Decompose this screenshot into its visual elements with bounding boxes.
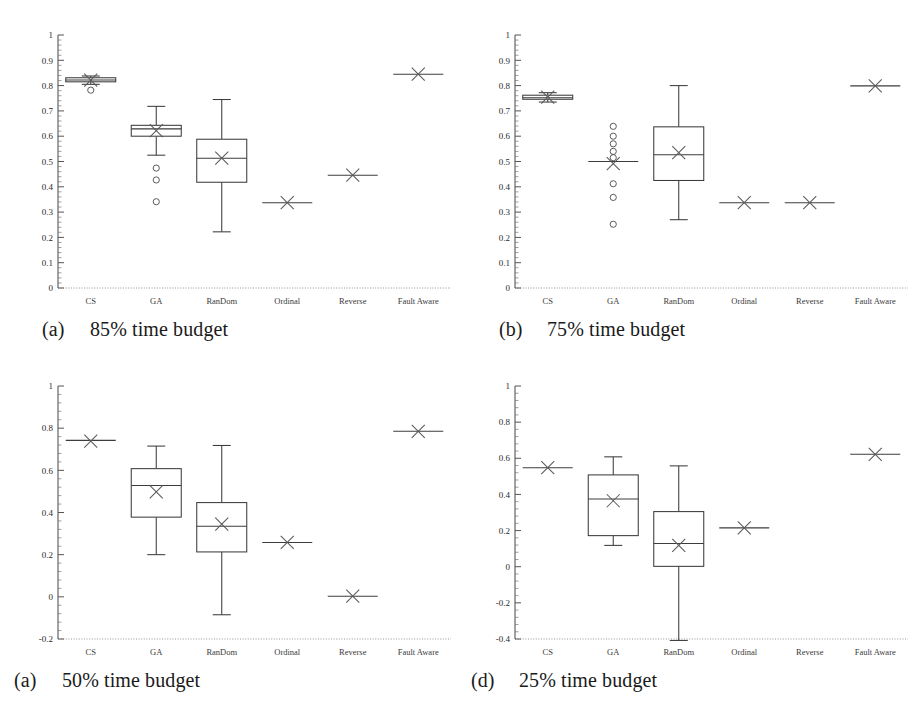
x-tick-label: Reverse <box>339 647 367 657</box>
x-tick-label: RanDom <box>663 647 694 657</box>
x-tick-label: Ordinal <box>274 296 301 306</box>
caption-letter: (b) <box>457 318 533 341</box>
y-tick-label: 0.3 <box>499 207 511 217</box>
plot-area-c: -0.200.20.40.60.81CSGARanDomOrdinalRever… <box>0 351 457 661</box>
y-tick-label: 1 <box>506 381 511 391</box>
plot-area-a: 00.10.20.30.40.50.60.70.80.91CSGARanDomO… <box>0 0 457 310</box>
y-tick-label: -0.2 <box>39 634 53 644</box>
box-group-random <box>197 100 247 232</box>
x-tick-label: Fault Aware <box>855 296 896 306</box>
x-tick-label: GA <box>150 296 163 306</box>
caption-text: 85% time budget <box>76 318 228 341</box>
caption-text: 25% time budget <box>505 669 657 692</box>
outlier-point <box>610 221 616 227</box>
box-rect <box>197 139 247 182</box>
y-tick-label: 0.3 <box>42 207 54 217</box>
y-tick-label: 0 <box>49 283 54 293</box>
y-tick-label: -0.2 <box>496 598 510 608</box>
y-tick-label: 1 <box>49 381 54 391</box>
x-tick-label: CS <box>86 647 97 657</box>
y-tick-label: 0.8 <box>42 81 54 91</box>
outlier-point <box>153 165 159 171</box>
plot-area-b: 00.10.20.30.40.50.60.70.80.91CSGARanDomO… <box>457 0 914 310</box>
y-tick-label: 0.6 <box>499 131 511 141</box>
y-tick-label: 0.9 <box>499 56 511 66</box>
x-tick-label: Reverse <box>339 296 367 306</box>
y-tick-label: 0.2 <box>42 550 53 560</box>
box-group-cs <box>523 461 573 474</box>
panel-d: -0.4-0.200.20.40.60.81CSGARanDomOrdinalR… <box>457 351 914 701</box>
outlier-point <box>88 87 94 93</box>
x-tick-label: Ordinal <box>731 647 758 657</box>
x-tick-label: GA <box>150 647 163 657</box>
y-tick-label: 0.8 <box>499 81 511 91</box>
y-tick-label: 0.2 <box>499 233 510 243</box>
box-group-reverse <box>328 590 378 603</box>
box-group-ga <box>588 123 638 227</box>
y-tick-label: 0 <box>506 562 511 572</box>
y-tick-label: 0.4 <box>499 490 511 500</box>
plot-area-d: -0.4-0.200.20.40.60.81CSGARanDomOrdinalR… <box>457 351 914 661</box>
caption-text: 50% time budget <box>48 669 200 692</box>
x-tick-label: CS <box>543 647 554 657</box>
y-tick-label: 0 <box>506 283 511 293</box>
outlier-point <box>610 181 616 187</box>
x-tick-label: Ordinal <box>731 296 758 306</box>
box-rect <box>588 475 638 536</box>
x-tick-label: RanDom <box>206 647 237 657</box>
y-tick-label: 0.9 <box>42 56 54 66</box>
caption-letter: (a) <box>0 318 76 341</box>
panel-c: -0.200.20.40.60.81CSGARanDomOrdinalRever… <box>0 351 457 701</box>
box-rect <box>654 127 704 181</box>
panel-caption-d: (d) 25% time budget <box>457 663 914 697</box>
panel-caption-b: (b) 75% time budget <box>457 312 914 346</box>
box-group-ga <box>131 446 181 555</box>
caption-letter: (d) <box>457 669 505 692</box>
y-tick-label: 0.6 <box>42 466 54 476</box>
figure-sheet: 00.10.20.30.40.50.60.70.80.91CSGARanDomO… <box>0 0 914 701</box>
outlier-point <box>153 199 159 205</box>
outlier-point <box>153 177 159 183</box>
box-group-fault-aware <box>393 68 443 81</box>
outlier-point <box>610 123 616 129</box>
box-rect <box>131 469 181 517</box>
caption-text: 75% time budget <box>533 318 685 341</box>
panel-b: 00.10.20.30.40.50.60.70.80.91CSGARanDomO… <box>457 0 914 350</box>
outlier-point <box>610 148 616 154</box>
box-group-random <box>654 466 704 641</box>
y-tick-label: 0 <box>49 592 54 602</box>
box-group-reverse <box>328 169 378 182</box>
y-tick-label: 0.1 <box>42 258 53 268</box>
outlier-point <box>610 194 616 200</box>
box-group-ga <box>131 106 181 204</box>
y-tick-label: 0.1 <box>499 258 510 268</box>
y-tick-label: 0.2 <box>42 233 53 243</box>
outlier-point <box>610 141 616 147</box>
y-tick-label: 0.8 <box>499 417 511 427</box>
y-tick-label: 0.7 <box>499 106 511 116</box>
y-tick-label: 0.5 <box>42 157 54 167</box>
box-group-cs <box>66 435 116 448</box>
x-tick-label: Fault Aware <box>855 647 896 657</box>
box-group-fault-aware <box>850 448 900 461</box>
y-tick-label: 0.4 <box>499 182 511 192</box>
box-group-ga <box>588 457 638 546</box>
y-tick-label: 0.2 <box>499 526 510 536</box>
boxplot-svg-c: -0.200.20.40.60.81CSGARanDomOrdinalRever… <box>0 351 457 661</box>
x-tick-label: Reverse <box>796 647 824 657</box>
box-group-fault-aware <box>393 425 443 438</box>
y-tick-label: 0.8 <box>42 423 54 433</box>
x-tick-label: Ordinal <box>274 647 301 657</box>
box-group-cs <box>66 74 116 94</box>
box-rect <box>197 503 247 552</box>
box-group-random <box>654 86 704 220</box>
y-tick-label: 0.4 <box>42 182 54 192</box>
boxplot-svg-b: 00.10.20.30.40.50.60.70.80.91CSGARanDomO… <box>457 0 914 310</box>
panel-a: 00.10.20.30.40.50.60.70.80.91CSGARanDomO… <box>0 0 457 350</box>
y-tick-label: 0.7 <box>42 106 54 116</box>
y-tick-label: 1 <box>506 30 511 40</box>
x-tick-label: Reverse <box>796 296 824 306</box>
box-group-random <box>197 445 247 614</box>
y-tick-label: 1 <box>49 30 54 40</box>
box-group-fault-aware <box>850 79 900 92</box>
